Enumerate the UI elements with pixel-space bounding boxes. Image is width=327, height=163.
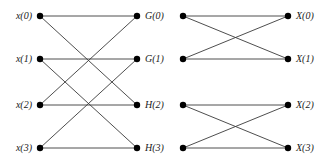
edge-layer bbox=[40, 16, 288, 148]
node-label-X2: X(2) bbox=[296, 100, 314, 110]
node-label-x0: x(0) bbox=[16, 11, 32, 21]
node-label-h3: H(3) bbox=[145, 143, 164, 153]
flow-node-x1 bbox=[37, 56, 43, 62]
flow-node-h2 bbox=[134, 102, 140, 108]
flow-node-X2 bbox=[285, 102, 291, 108]
node-label-X3: X(3) bbox=[296, 143, 314, 153]
node-label-g0: G(0) bbox=[145, 11, 164, 21]
node-label-x1: x(1) bbox=[16, 54, 32, 64]
flow-graph-canvas bbox=[0, 0, 327, 163]
flow-node-m3 bbox=[180, 145, 186, 151]
node-label-X1: X(1) bbox=[296, 54, 314, 64]
flow-node-X1 bbox=[285, 56, 291, 62]
node-layer bbox=[37, 13, 291, 151]
flow-node-x0 bbox=[37, 13, 43, 19]
flow-node-x3 bbox=[37, 145, 43, 151]
node-label-g1: G(1) bbox=[145, 54, 164, 64]
node-label-X0: X(0) bbox=[296, 11, 314, 21]
flow-node-g0 bbox=[134, 13, 140, 19]
flow-node-X3 bbox=[285, 145, 291, 151]
node-label-x2: x(2) bbox=[16, 100, 32, 110]
flow-node-g1 bbox=[134, 56, 140, 62]
node-label-h2: H(2) bbox=[145, 100, 164, 110]
flow-node-m0 bbox=[180, 13, 186, 19]
flow-node-h3 bbox=[134, 145, 140, 151]
signal-flow-graph: x(0)x(1)x(2)x(3)G(0)G(1)H(2)H(3)X(0)X(1)… bbox=[0, 0, 327, 163]
flow-node-X0 bbox=[285, 13, 291, 19]
flow-node-m1 bbox=[180, 56, 186, 62]
node-label-x3: x(3) bbox=[16, 143, 32, 153]
flow-node-x2 bbox=[37, 102, 43, 108]
flow-node-m2 bbox=[180, 102, 186, 108]
